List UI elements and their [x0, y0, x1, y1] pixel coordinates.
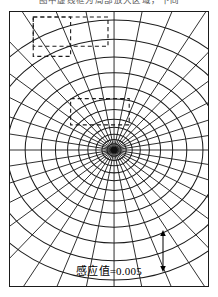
scale-bar-ab: A B — [145, 228, 185, 274]
figure-panel: 图中虚线框为局部放大区域，下同 感应值=0.005 A B — [0, 0, 218, 297]
scale-bar-arrow-icon — [145, 228, 185, 274]
top-caption: 图中虚线框为局部放大区域，下同 — [0, 0, 218, 6]
